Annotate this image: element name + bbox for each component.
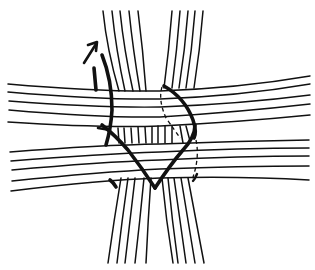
right-vertical-strands-top bbox=[164, 11, 203, 88]
middle-vertical-strands bbox=[118, 126, 190, 143]
arrow-stub-strand bbox=[94, 68, 96, 90]
weave-illustration bbox=[0, 0, 315, 270]
left-vertical-strands-bottom bbox=[108, 178, 151, 263]
right-vertical-strands-bottom bbox=[162, 178, 204, 263]
diagram-canvas: woven-strand-crossing bbox=[0, 0, 315, 270]
upward-arrow-icon bbox=[84, 42, 97, 63]
upper-horizontal-strands bbox=[8, 76, 310, 127]
